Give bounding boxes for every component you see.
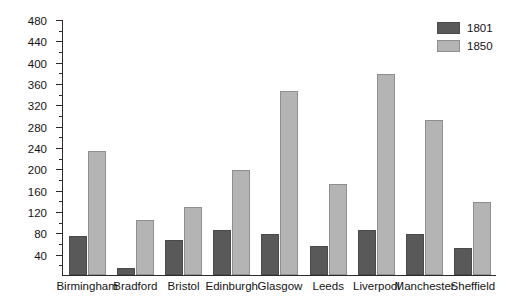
y-axis-minor-tick (59, 52, 63, 53)
x-axis-category-label: Glasgow (258, 280, 303, 292)
y-axis-tick-label: 320 (28, 100, 47, 112)
y-axis-tick: 120 (56, 212, 63, 213)
y-axis-minor-tick (59, 73, 63, 74)
bar-group: Manchester (401, 120, 449, 275)
bar-manchester-1801 (406, 234, 424, 275)
y-axis-tick: 280 (56, 127, 63, 128)
y-axis-tick-label: 200 (28, 164, 47, 176)
bar-glasgow-1801 (261, 234, 279, 275)
y-axis-tick-label: 360 (28, 79, 47, 91)
y-axis-tick: 360 (56, 84, 63, 85)
bar-edinburgh-1850 (232, 170, 250, 275)
legend-label: 1801 (467, 22, 493, 34)
legend-item-1801: 1801 (437, 22, 493, 34)
plot-area: 4080120160200240280320360400440480Birmin… (62, 20, 496, 276)
y-axis-tick-label: 400 (28, 58, 47, 70)
y-axis-tick: 480 (56, 20, 63, 21)
bar-liverpool-1850 (377, 74, 395, 275)
chart-legend: 18011850 (437, 22, 493, 52)
bar-group: Edinburgh (208, 170, 256, 275)
y-axis-tick-label: 280 (28, 122, 47, 134)
y-axis-tick-label: 440 (28, 36, 47, 48)
y-axis-tick: 40 (56, 255, 63, 256)
bar-bradford-1850 (136, 220, 154, 275)
x-axis-category-label: Bradford (113, 280, 157, 292)
x-axis-category-label: Birmingham (56, 280, 117, 292)
bar-bradford-1801 (117, 268, 135, 275)
y-axis-tick: 160 (56, 191, 63, 192)
y-axis-tick: 200 (56, 169, 63, 170)
bar-group: Sheffield (449, 202, 497, 275)
y-axis-tick-label: 480 (28, 15, 47, 27)
bar-sheffield-1850 (473, 202, 491, 275)
x-axis-category-label: Liverpool (353, 280, 400, 292)
x-axis-category-label: Sheffield (451, 280, 496, 292)
y-axis-tick: 80 (56, 233, 63, 234)
bar-leeds-1801 (310, 246, 328, 275)
y-axis-tick-label: 160 (28, 186, 47, 198)
x-axis-category-label: Bristol (168, 280, 200, 292)
y-axis-tick: 320 (56, 105, 63, 106)
y-axis-tick-label: 80 (34, 228, 47, 240)
legend-swatch-1850 (437, 40, 460, 52)
bar-chart: Population (1000s) 408012016020024028032… (0, 0, 521, 304)
legend-swatch-1801 (437, 22, 460, 34)
y-axis-tick: 440 (56, 41, 63, 42)
bar-edinburgh-1801 (213, 230, 231, 275)
y-axis-tick-label: 40 (34, 250, 47, 262)
legend-label: 1850 (467, 40, 493, 52)
bar-group: Liverpool (352, 74, 400, 275)
bar-birmingham-1801 (69, 236, 87, 275)
bar-manchester-1850 (425, 120, 443, 275)
bar-group: Birmingham (63, 151, 111, 275)
bar-group: Leeds (304, 184, 352, 275)
y-axis-tick: 400 (56, 63, 63, 64)
y-axis-tick: 240 (56, 148, 63, 149)
bar-liverpool-1801 (358, 230, 376, 275)
bar-sheffield-1801 (454, 248, 472, 275)
bar-bristol-1801 (165, 240, 183, 275)
bar-leeds-1850 (329, 184, 347, 275)
y-axis-minor-tick (59, 31, 63, 32)
y-axis-tick-label: 120 (28, 207, 47, 219)
y-axis-minor-tick (59, 137, 63, 138)
bar-group: Glasgow (256, 91, 304, 275)
bar-group: Bristol (159, 207, 207, 275)
bar-glasgow-1850 (280, 91, 298, 275)
x-axis-category-label: Edinburgh (206, 280, 258, 292)
y-axis-minor-tick (59, 95, 63, 96)
legend-item-1850: 1850 (437, 40, 493, 52)
x-axis-category-label: Manchester (395, 280, 455, 292)
bar-birmingham-1850 (88, 151, 106, 275)
y-axis-tick-label: 240 (28, 143, 47, 155)
x-axis-category-label: Leeds (313, 280, 344, 292)
y-axis-minor-tick (59, 116, 63, 117)
bar-bristol-1850 (184, 207, 202, 275)
bar-group: Bradford (111, 220, 159, 275)
